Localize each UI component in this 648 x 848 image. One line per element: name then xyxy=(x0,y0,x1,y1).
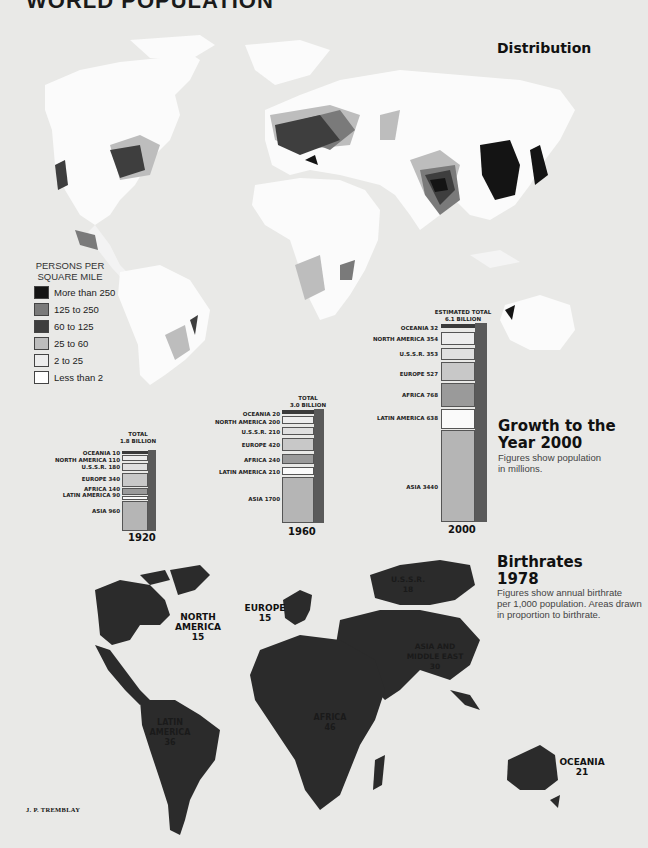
label-latin-america: LATIN AMERICA 36 xyxy=(140,718,200,748)
label-oceania: OCEANIA 21 xyxy=(557,757,607,777)
artist-credit: J. P. TREMBLAY xyxy=(26,806,80,813)
label-north-america: NORTH AMERICA 15 xyxy=(168,612,228,642)
label-asia-middle-east: ASIA AND MIDDLE EAST 30 xyxy=(400,642,470,672)
birthrate-note: Figures show annual birthrate per 1,000 … xyxy=(497,587,647,620)
label-ussr: U.S.S.R. 18 xyxy=(378,575,438,595)
birthrate-title: Birthrates 1978 xyxy=(497,554,583,588)
label-africa: AFRICA 46 xyxy=(305,713,355,733)
label-europe: EUROPE 15 xyxy=(240,603,290,623)
